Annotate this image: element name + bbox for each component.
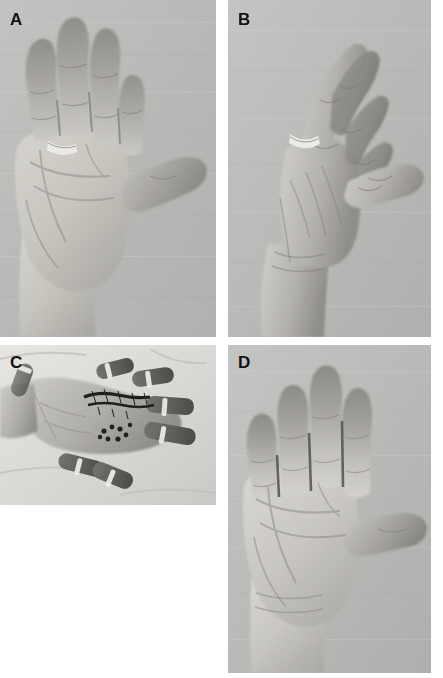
figure-composite: A bbox=[0, 0, 443, 678]
panel-a-photo bbox=[0, 0, 216, 337]
panel-d-photo bbox=[228, 345, 431, 673]
panel-label-a: A bbox=[10, 11, 22, 28]
panel-label-b: B bbox=[238, 11, 250, 28]
panel-c-image bbox=[0, 345, 216, 505]
panel-label-d: D bbox=[238, 354, 250, 371]
panel-a-image bbox=[0, 0, 216, 337]
panel-d-image bbox=[228, 345, 431, 673]
panel-c-photo bbox=[0, 345, 216, 505]
panel-label-c: C bbox=[10, 354, 22, 371]
panel-b-image bbox=[228, 0, 431, 337]
panel-b-photo bbox=[228, 0, 431, 337]
